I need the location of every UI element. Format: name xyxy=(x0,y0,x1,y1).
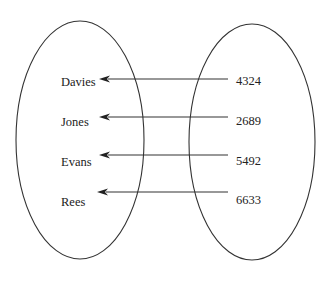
mapping-arrows xyxy=(97,76,228,196)
mapping-diagram: DaviesJonesEvansRees 4324268954926633 xyxy=(0,0,332,282)
codomain-ellipse xyxy=(189,24,315,260)
domain-ellipse xyxy=(16,21,144,259)
codomain-label: 5492 xyxy=(236,154,261,168)
codomain-set: 4324268954926633 xyxy=(189,24,315,260)
codomain-label: 2689 xyxy=(236,114,261,128)
domain-label: Jones xyxy=(61,115,89,129)
domain-label: Rees xyxy=(61,195,85,209)
domain-label: Davies xyxy=(61,75,96,89)
domain-label: Evans xyxy=(61,155,92,169)
codomain-label: 4324 xyxy=(236,74,262,88)
codomain-label: 6633 xyxy=(236,193,261,207)
domain-set: DaviesJonesEvansRees xyxy=(16,21,144,259)
